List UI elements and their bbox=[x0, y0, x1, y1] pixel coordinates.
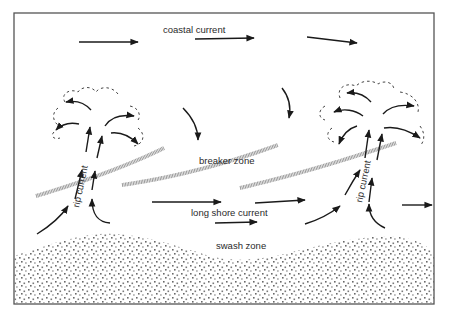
breaker-zone-label: breaker zone bbox=[199, 155, 254, 166]
swash-zone-label: swash zone bbox=[216, 240, 266, 251]
nearshore-circulation-diagram: rip current rip current coastal current … bbox=[0, 0, 449, 318]
coastal-current-label: coastal current bbox=[163, 24, 226, 35]
long-shore-current-label: long shore current bbox=[191, 207, 268, 218]
